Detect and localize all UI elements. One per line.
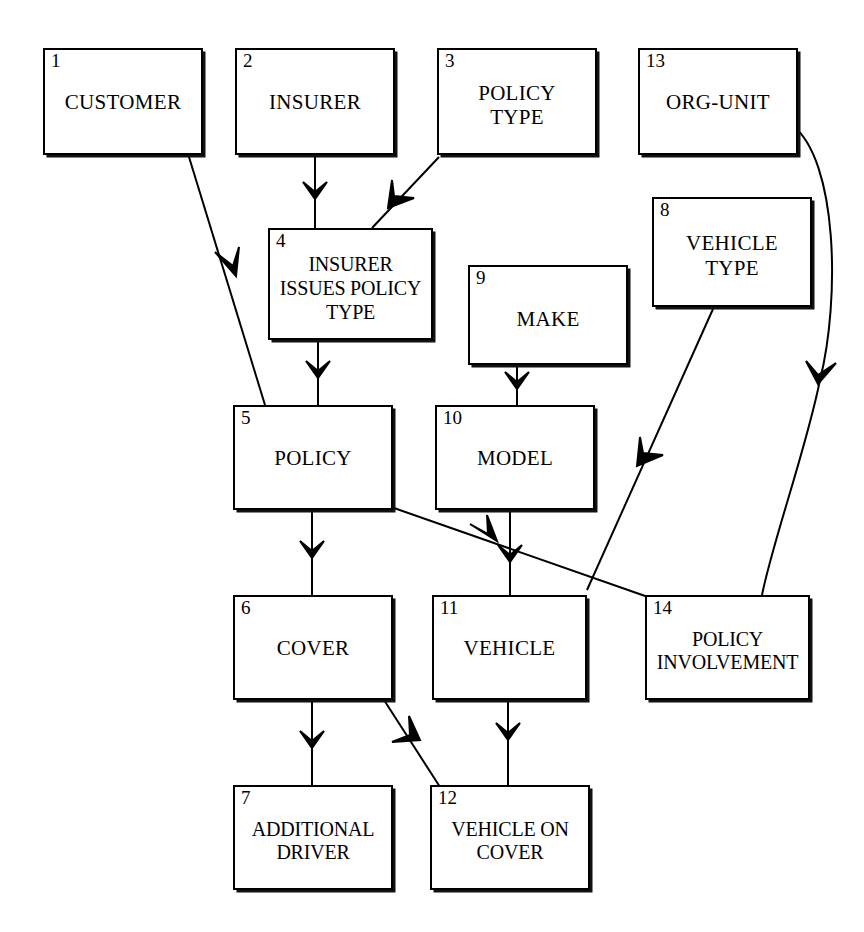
entity-label: POLICY TYPE — [439, 81, 595, 131]
entity-number: 1 — [51, 51, 61, 71]
entity-number: 13 — [646, 51, 665, 71]
entity-label: ORG-UNIT — [640, 89, 796, 114]
entity-label: VEHICLE ON COVER — [432, 818, 588, 865]
entity-box-insurer-issues-policy-type[interactable]: 4 INSURER ISSUES POLICY TYPE — [268, 228, 433, 340]
entity-number: 2 — [243, 51, 253, 71]
entity-number: 11 — [440, 598, 458, 618]
entity-label: ADDITIONAL DRIVER — [235, 818, 391, 865]
edge-model-to-vehicle — [498, 512, 522, 595]
entity-label: POLICY — [235, 445, 391, 470]
entity-label: INSURER — [237, 89, 393, 114]
entity-label: VEHICLE — [434, 635, 585, 660]
edge-policy-to-policy-involvement — [394, 508, 648, 597]
entity-box-additional-driver[interactable]: 7 ADDITIONAL DRIVER — [233, 785, 393, 890]
entity-number: 5 — [241, 408, 251, 428]
entity-box-vehicle-on-cover[interactable]: 12 VEHICLE ON COVER — [430, 785, 590, 890]
entity-number: 6 — [241, 598, 251, 618]
entity-label: POLICY INVOLVEMENT — [647, 628, 808, 675]
entity-box-customer[interactable]: 1 CUSTOMER — [43, 48, 203, 155]
entity-number: 9 — [476, 268, 486, 288]
er-diagram-canvas: 1 CUSTOMER 2 INSURER 3 POLICY TYPE 13 OR… — [0, 0, 864, 932]
entity-number: 4 — [276, 231, 286, 251]
entity-number: 8 — [660, 200, 670, 220]
entity-box-model[interactable]: 10 MODEL — [435, 405, 595, 510]
edge-vehicle-to-vehicle-on-cover — [496, 702, 520, 785]
entity-label: VEHICLE TYPE — [654, 231, 810, 281]
edge-policy-to-cover — [300, 512, 324, 595]
edge-policy-type-to-insurer-issues-policy-type — [372, 157, 439, 228]
edge-org-unit-to-policy-involvement — [762, 125, 836, 595]
edge-insurer-issues-policy-type-to-policy — [306, 342, 330, 405]
entity-box-policy-type[interactable]: 3 POLICY TYPE — [437, 48, 597, 155]
entity-label: COVER — [235, 635, 391, 660]
edge-cover-to-additional-driver — [300, 702, 324, 785]
edge-customer-to-policy — [189, 157, 265, 405]
entity-number: 3 — [445, 51, 455, 71]
entity-number: 14 — [653, 598, 672, 618]
edge-insurer-to-insurer-issues-policy-type — [303, 157, 327, 228]
entity-number: 12 — [438, 788, 457, 808]
entity-box-cover[interactable]: 6 COVER — [233, 595, 393, 700]
entity-box-vehicle[interactable]: 11 VEHICLE — [432, 595, 587, 700]
entity-box-policy-involvement[interactable]: 14 POLICY INVOLVEMENT — [645, 595, 810, 700]
edge-cover-to-vehicle-on-cover — [384, 700, 440, 787]
entity-box-policy[interactable]: 5 POLICY — [233, 405, 393, 510]
entity-number: 7 — [241, 788, 251, 808]
edge-make-to-model — [505, 367, 529, 405]
entity-label: INSURER ISSUES POLICY TYPE — [270, 253, 431, 324]
entity-number: 10 — [443, 408, 462, 428]
entity-box-insurer[interactable]: 2 INSURER — [235, 48, 395, 155]
entity-box-make[interactable]: 9 MAKE — [468, 265, 628, 365]
entity-label: MODEL — [437, 445, 593, 470]
entity-box-org-unit[interactable]: 13 ORG-UNIT — [638, 48, 798, 155]
entity-label: CUSTOMER — [45, 89, 201, 114]
entity-label: MAKE — [470, 306, 626, 331]
entity-box-vehicle-type[interactable]: 8 VEHICLE TYPE — [652, 197, 812, 307]
